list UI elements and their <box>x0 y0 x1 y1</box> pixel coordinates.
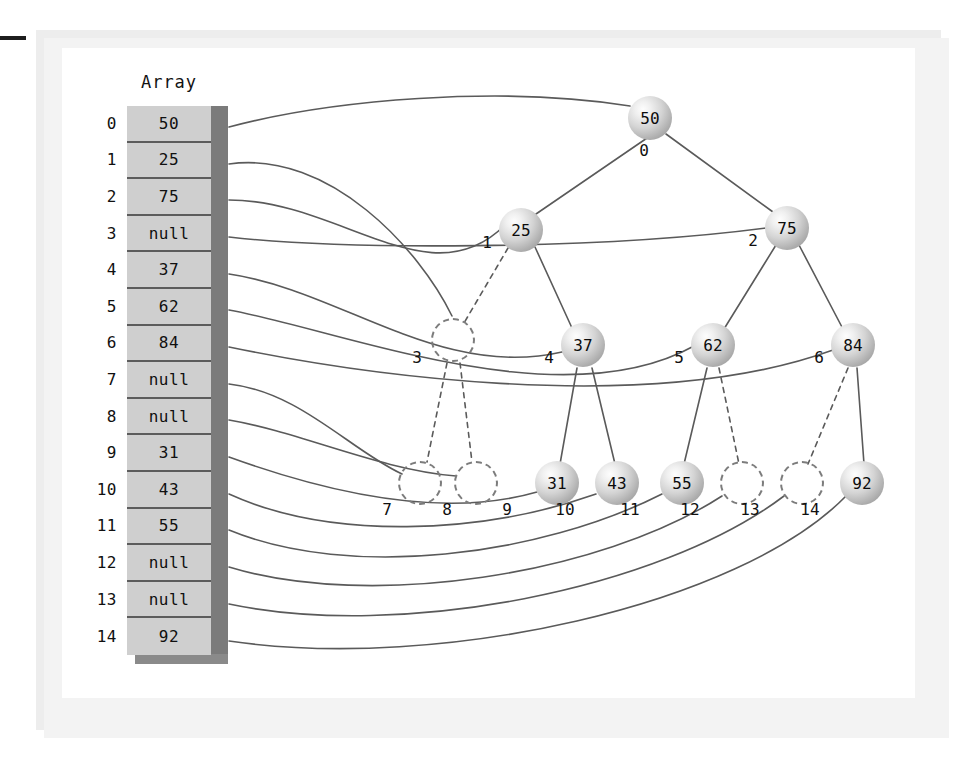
tree-node-9[interactable]: 31 <box>535 461 579 505</box>
tree-node-index-11: 11 <box>617 500 643 519</box>
tree-node-11[interactable]: 55 <box>660 461 704 505</box>
array-value-5: 62 <box>159 297 179 316</box>
tree-node-index-14: 14 <box>797 500 823 519</box>
array-3d-side <box>211 106 228 654</box>
array-index-3: 3 <box>79 224 117 243</box>
array-value-3: null <box>149 224 190 243</box>
tree-node-index-3: 3 <box>404 348 430 367</box>
tree-node-12-empty[interactable] <box>720 461 764 505</box>
array-cell-10[interactable]: 1043 <box>127 472 211 509</box>
tree-node-index-2: 2 <box>740 231 766 250</box>
tree-node-0[interactable]: 50 <box>628 96 672 140</box>
tree-node-value-11: 55 <box>672 474 691 493</box>
array-cell-8[interactable]: 8null <box>127 399 211 436</box>
tree-node-index-12: 12 <box>677 500 703 519</box>
array-value-8: null <box>149 407 190 426</box>
array-cell-9[interactable]: 931 <box>127 435 211 472</box>
array-value-6: 84 <box>159 333 179 352</box>
tree-node-index-0: 0 <box>631 141 657 160</box>
tree-node-value-2: 75 <box>777 219 796 238</box>
tree-node-3-empty[interactable] <box>431 318 475 362</box>
tree-node-10[interactable]: 43 <box>595 461 639 505</box>
array-value-11: 55 <box>159 516 179 535</box>
tree-node-value-5: 62 <box>703 336 722 355</box>
page-margin-mark <box>0 36 26 40</box>
tree-node-index-7: 7 <box>374 500 400 519</box>
array-cell-2[interactable]: 275 <box>127 179 211 216</box>
tree-node-index-1: 1 <box>474 233 500 252</box>
array-cell-6[interactable]: 684 <box>127 326 211 363</box>
array-value-2: 75 <box>159 187 179 206</box>
tree-node-index-5: 5 <box>666 348 692 367</box>
tree-node-value-6: 84 <box>843 336 862 355</box>
tree-node-index-8: 8 <box>434 500 460 519</box>
array-cell-11[interactable]: 1155 <box>127 509 211 546</box>
tree-node-value-14: 92 <box>852 474 871 493</box>
array-cell-7[interactable]: 7null <box>127 362 211 399</box>
array-index-8: 8 <box>79 407 117 426</box>
array-title: Array <box>127 72 211 92</box>
tree-node-index-6: 6 <box>806 348 832 367</box>
array-value-12: null <box>149 553 190 572</box>
tree-node-4[interactable]: 37 <box>561 323 605 367</box>
tree-node-1[interactable]: 25 <box>499 208 543 252</box>
array-index-5: 5 <box>79 297 117 316</box>
tree-node-value-9: 31 <box>547 474 566 493</box>
tree-node-7-empty[interactable] <box>398 461 442 505</box>
array-cell-5[interactable]: 562 <box>127 289 211 326</box>
tree-node-index-13: 13 <box>737 500 763 519</box>
tree-node-6[interactable]: 84 <box>831 323 875 367</box>
array-index-1: 1 <box>79 150 117 169</box>
array-index-0: 0 <box>79 114 117 133</box>
array-block: 050 125 275 3null 437 562 684 7null 8nul… <box>127 106 228 662</box>
array-index-4: 4 <box>79 260 117 279</box>
array-cell-12[interactable]: 12null <box>127 545 211 582</box>
array-cell-14[interactable]: 1492 <box>127 618 211 655</box>
array-index-10: 10 <box>79 480 117 499</box>
tree-node-index-10: 10 <box>552 500 578 519</box>
array-index-7: 7 <box>79 370 117 389</box>
array-value-4: 37 <box>159 260 179 279</box>
tree-node-13-empty[interactable] <box>780 461 824 505</box>
array-index-13: 13 <box>79 590 117 609</box>
array-cell-1[interactable]: 125 <box>127 143 211 180</box>
array-value-7: null <box>149 370 190 389</box>
tree-node-index-4: 4 <box>536 348 562 367</box>
tree-node-value-4: 37 <box>573 336 592 355</box>
array-index-2: 2 <box>79 187 117 206</box>
tree-node-value-10: 43 <box>607 474 626 493</box>
array-index-11: 11 <box>79 516 117 535</box>
tree-node-value-0: 50 <box>640 109 659 128</box>
array-index-12: 12 <box>79 553 117 572</box>
tree-node-8-empty[interactable] <box>454 461 498 505</box>
tree-node-5[interactable]: 62 <box>691 323 735 367</box>
array-3d-bottom <box>135 654 228 664</box>
array-cell-4[interactable]: 437 <box>127 252 211 289</box>
figure-binary-tree-array-representation: Array 050 125 275 3null 437 562 684 7nul… <box>0 0 979 768</box>
array-cell-0[interactable]: 050 <box>127 106 211 143</box>
array-index-6: 6 <box>79 333 117 352</box>
array-value-10: 43 <box>159 480 179 499</box>
array-cell-3[interactable]: 3null <box>127 216 211 253</box>
tree-node-14[interactable]: 92 <box>840 461 884 505</box>
tree-node-value-1: 25 <box>511 221 530 240</box>
tree-node-index-9: 9 <box>494 500 520 519</box>
array-value-1: 25 <box>159 150 179 169</box>
tree-node-2[interactable]: 75 <box>765 206 809 250</box>
array-value-0: 50 <box>159 114 179 133</box>
array-cell-13[interactable]: 13null <box>127 582 211 619</box>
array-index-9: 9 <box>79 443 117 462</box>
array-value-9: 31 <box>159 443 179 462</box>
array-value-14: 92 <box>159 627 179 646</box>
array-index-14: 14 <box>79 627 117 646</box>
array-value-13: null <box>149 590 190 609</box>
